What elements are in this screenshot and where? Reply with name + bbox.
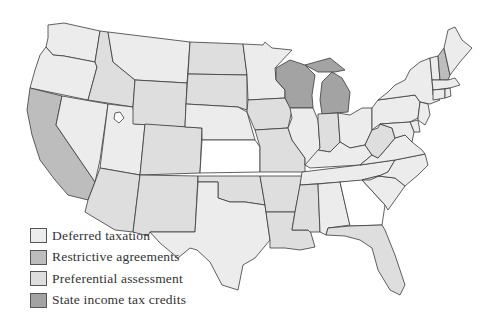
legend-swatch-deferred-taxation (30, 228, 47, 243)
state-nj (418, 102, 430, 125)
state-me (444, 27, 472, 75)
map-legend: Deferred taxation Restrictive agreements… (30, 225, 186, 311)
legend-swatch-restrictive-agreements (30, 250, 47, 265)
legend-label: Restrictive agreements (52, 249, 180, 265)
legend-item-deferred-taxation: Deferred taxation (30, 225, 186, 247)
state-ma (432, 78, 460, 90)
state-ks (200, 140, 260, 173)
legend-swatch-preferential-assessment (30, 271, 47, 286)
legend-label: Preferential assessment (52, 271, 183, 287)
legend-label: Deferred taxation (52, 228, 150, 244)
legend-item-preferential-assessment: Preferential assessment (30, 268, 186, 290)
legend-item-restrictive-agreements: Restrictive agreements (30, 247, 186, 269)
state-ia (247, 98, 292, 130)
legend-item-state-income-tax-credits: State income tax credits (30, 290, 186, 312)
state-ct (433, 89, 445, 100)
legend-swatch-state-income-tax-credits (30, 293, 47, 308)
state-ri (445, 88, 451, 98)
state-co (140, 124, 202, 175)
legend-label: State income tax credits (52, 292, 186, 308)
state-nd (188, 42, 247, 75)
state-fl (326, 225, 405, 295)
state-wy (133, 80, 187, 127)
